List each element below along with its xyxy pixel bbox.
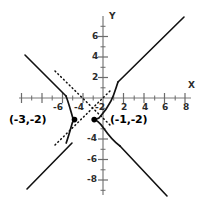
y-tick-label: 4 (92, 52, 98, 61)
y-axis-label: Y (109, 12, 116, 21)
upper-left-line (25, 55, 66, 96)
point-label-right-vertex: (-1,-2) (110, 114, 147, 125)
y-tick-label: -8 (87, 175, 97, 184)
vertex-markers (72, 117, 97, 123)
y-tick-label: -4 (87, 134, 97, 143)
x-tick-label: 8 (183, 103, 189, 112)
x-tick-label: -6 (53, 103, 63, 112)
x-tick-label: 4 (142, 103, 148, 112)
y-tick-label: -6 (87, 155, 97, 164)
left-branch-lower-arc (66, 120, 75, 143)
x-tick-label: -4 (74, 103, 84, 112)
vertex-point-right (91, 117, 97, 123)
x-axis-label: X (188, 81, 195, 90)
y-tick-label: 2 (92, 73, 98, 82)
x-tick-label: -2 (95, 103, 105, 112)
x-tick-label: 6 (162, 103, 168, 112)
y-tick-label: 6 (92, 32, 98, 41)
point-label-left-vertex: (-3,-2) (9, 114, 46, 125)
x-tick-label: 2 (121, 103, 127, 112)
hyperbola-graph-figure: -6 -4 -2 2 4 6 8 6 4 2 -4 -6 -8 X Y (-3,… (0, 0, 207, 204)
lower-left-line (27, 143, 72, 189)
upper-right-line (118, 17, 184, 82)
lower-right-line (120, 146, 167, 196)
vertex-point-left (72, 117, 78, 123)
